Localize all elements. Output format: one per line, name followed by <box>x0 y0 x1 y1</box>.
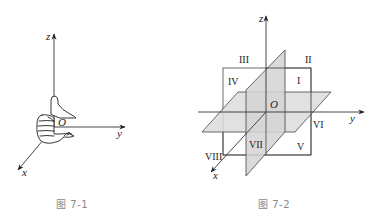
octant-label-7: VII <box>249 139 263 150</box>
z-axis-label: z <box>45 30 51 42</box>
right-hand-icon <box>37 96 76 143</box>
figure-canvas: z O y x z O y x I II <box>0 0 370 217</box>
octant-label-8: VIII <box>205 151 222 162</box>
octant-label-1: I <box>297 75 300 86</box>
octant-label-2: II <box>305 54 312 65</box>
x-axis-label: x <box>212 169 218 181</box>
y-axis-label: y <box>349 112 355 124</box>
octant-label-5: V <box>297 141 305 152</box>
figure-7-2-caption: 图 7-2 <box>258 196 290 211</box>
figure-7-1-caption: 图 7-1 <box>56 196 88 211</box>
z-axis-label: z <box>258 12 264 24</box>
y-axis-label: y <box>116 127 122 139</box>
octant-label-4: IV <box>228 76 239 87</box>
x-axis-label: x <box>21 166 27 178</box>
octant-label-3: III <box>239 54 249 65</box>
figure-7-2: z O y x I II III IV V VI VII VIII <box>198 12 364 181</box>
figure-7-1: z O y x <box>18 30 125 178</box>
octant-label-6: VI <box>313 119 324 130</box>
origin-label: O <box>270 98 278 110</box>
origin-label: O <box>58 116 66 128</box>
